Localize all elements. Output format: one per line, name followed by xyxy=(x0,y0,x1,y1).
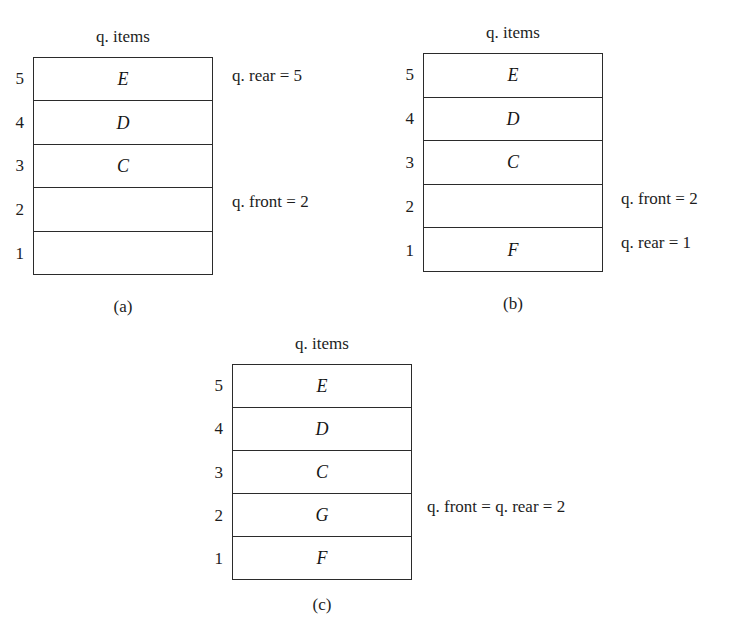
queue-cell: E xyxy=(34,58,212,101)
queue-cell: D xyxy=(424,98,602,142)
queue-cell-value: G xyxy=(315,506,328,524)
queue-cell-value: E xyxy=(316,377,327,395)
index-label: 1 xyxy=(390,228,423,272)
queue-cell-value: E xyxy=(507,66,518,84)
index-label: 3 xyxy=(199,450,232,493)
figure-page: { "page": { "background_color": "#ffffff… xyxy=(0,0,744,631)
queue-items-label-b: q. items xyxy=(423,23,603,43)
queue-cell xyxy=(424,185,602,229)
queue-rear-annotation-b: q. rear = 1 xyxy=(621,233,691,253)
queue-front-rear-annotation-c: q. front = q. rear = 2 xyxy=(427,497,565,517)
figure-caption-a: (a) xyxy=(73,297,173,317)
queue-array-c: E D C G F xyxy=(232,364,412,580)
index-label: 2 xyxy=(199,494,232,537)
index-label: 4 xyxy=(0,101,33,145)
queue-front-annotation-b: q. front = 2 xyxy=(621,189,698,209)
queue-items-label-a: q. items xyxy=(33,27,213,47)
queue-cell-value: C xyxy=(117,157,129,175)
queue-cell-value: D xyxy=(116,114,129,132)
index-column-a: 5 4 3 2 1 xyxy=(0,57,33,275)
queue-cell: G xyxy=(233,494,411,537)
queue-cell-value: F xyxy=(507,241,518,259)
index-column-b: 5 4 3 2 1 xyxy=(390,53,423,272)
queue-cell-value: D xyxy=(315,420,328,438)
queue-cell-value: C xyxy=(316,463,328,481)
queue-cell-value: C xyxy=(507,153,519,171)
figure-caption-c: (c) xyxy=(272,595,372,615)
queue-cell: C xyxy=(34,145,212,188)
queue-cell: D xyxy=(34,101,212,144)
index-label: 4 xyxy=(199,407,232,450)
queue-cell-value: D xyxy=(506,110,519,128)
index-label: 5 xyxy=(199,364,232,407)
index-label: 5 xyxy=(390,53,423,97)
queue-rear-annotation-a: q. rear = 5 xyxy=(232,66,302,86)
figure-caption-b: (b) xyxy=(463,294,563,314)
index-label: 4 xyxy=(390,97,423,141)
queue-cell-value: E xyxy=(117,70,128,88)
index-label: 2 xyxy=(0,188,33,232)
queue-front-annotation-a: q. front = 2 xyxy=(232,192,309,212)
queue-cell: C xyxy=(424,141,602,185)
queue-array-b: E D C F xyxy=(423,53,603,272)
index-label: 3 xyxy=(0,144,33,188)
queue-cell: F xyxy=(233,537,411,579)
queue-cell-value: F xyxy=(316,549,327,567)
queue-cell: E xyxy=(424,54,602,98)
index-column-c: 5 4 3 2 1 xyxy=(199,364,232,580)
queue-items-label-c: q. items xyxy=(232,334,412,354)
index-label: 1 xyxy=(0,231,33,275)
queue-cell xyxy=(34,232,212,274)
queue-cell: C xyxy=(233,451,411,494)
queue-cell: F xyxy=(424,228,602,271)
index-label: 2 xyxy=(390,184,423,228)
index-label: 1 xyxy=(199,537,232,580)
queue-cell xyxy=(34,188,212,231)
index-label: 3 xyxy=(390,141,423,185)
index-label: 5 xyxy=(0,57,33,101)
queue-cell: D xyxy=(233,408,411,451)
queue-cell: E xyxy=(233,365,411,408)
queue-array-a: E D C xyxy=(33,57,213,275)
